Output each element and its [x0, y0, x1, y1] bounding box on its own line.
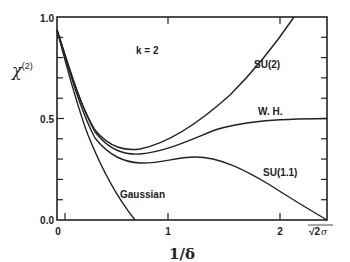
label-su11: SU(1.1) — [263, 167, 297, 178]
y-tick-label-05: 0.5 — [40, 114, 54, 125]
curve-wh — [57, 30, 327, 154]
x-tick-label-0: 0 — [55, 226, 61, 237]
y-tick-label-0: 0.0 — [40, 215, 54, 226]
annotation-k: k = 2 — [136, 45, 159, 56]
y-axis-title: χ(2) — [11, 61, 33, 80]
label-wh: W. H. — [258, 106, 283, 117]
x-ticks — [65, 17, 280, 220]
y-ticks-left — [57, 37, 64, 199]
x-tick-label-end: √2σ — [309, 226, 328, 237]
curve-su2 — [57, 17, 294, 150]
x-axis-title: 1/δ — [169, 245, 195, 262]
chart: SU(2) W. H. SU(1.1) Gaussian k = 2 1.0 0… — [0, 0, 350, 262]
x-tick-label-1: 1 — [165, 226, 171, 237]
plot-frame — [57, 17, 327, 220]
label-su2: SU(2) — [254, 59, 280, 70]
y-tick-label-1: 1.0 — [40, 13, 54, 24]
x-tick-label-2: 2 — [277, 226, 283, 237]
label-gaussian: Gaussian — [120, 189, 165, 200]
